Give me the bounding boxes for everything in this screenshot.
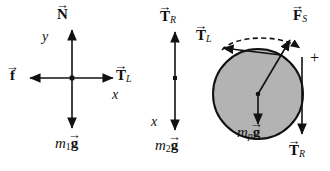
axis-x-label-block1: x xyxy=(112,88,118,102)
weight-2-label: m2→g xyxy=(155,138,178,154)
tension-left-subscript-pulley: L xyxy=(206,33,212,44)
tension-right-label-pulley: →TR xyxy=(289,143,305,159)
weight-1-label: m1→g xyxy=(55,136,78,152)
figure-canvas: →N y →f →TL x m1→g →TR x m2→g →TL →FS + … xyxy=(0,0,330,171)
tension-left-label-block1: →TL xyxy=(116,68,132,84)
positive-sense-label: + xyxy=(310,50,319,66)
support-force-label: →FS xyxy=(293,8,307,24)
tension-right-label-block2: →TR xyxy=(160,9,176,25)
support-force-subscript: S xyxy=(302,13,307,24)
friction-force-label: →f xyxy=(10,68,15,83)
block-1-vectors xyxy=(30,30,113,128)
tension-right-subscript-pulley: R xyxy=(299,148,305,159)
axis-x-label-block2: x xyxy=(151,115,157,129)
mass-2-symbol: m xyxy=(155,137,166,153)
tension-left-label-pulley: →TL xyxy=(196,28,212,44)
origin-dot-block2 xyxy=(173,76,177,80)
normal-force-label: →N xyxy=(57,7,68,22)
tension-right-subscript-block2: R xyxy=(170,14,176,25)
mass-pulley-symbol: m xyxy=(237,124,248,140)
tension-left-subscript-block1: L xyxy=(126,73,132,84)
origin-dot-block1 xyxy=(70,76,75,81)
pulley-center-dot xyxy=(256,92,261,97)
mass-1-symbol: m xyxy=(55,135,66,151)
block-2-vectors xyxy=(173,32,177,130)
axis-y-label-block1: y xyxy=(42,30,48,44)
weight-pulley-label: mp→g xyxy=(237,125,260,141)
